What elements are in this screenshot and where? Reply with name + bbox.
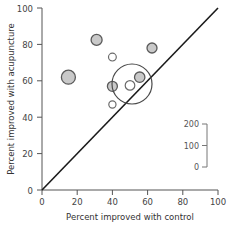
x-tick-label-0: 0 [39, 197, 44, 207]
line-of-equality [42, 8, 218, 190]
acupuncture-vs-control-scatter: 100 80 60 40 20 0 0 20 40 60 80 100 Perc… [0, 0, 233, 228]
scatter-plot-figure: 100 80 60 40 20 0 0 20 40 60 80 100 Perc… [0, 0, 233, 228]
data-point-study-1[interactable] [61, 70, 75, 84]
sample-size-legend: 200 100 0 [184, 120, 207, 172]
legend-label-100: 100 [184, 142, 199, 151]
data-point-study-6[interactable] [109, 101, 116, 108]
y-tick-label-60: 60 [22, 76, 33, 86]
data-point-study-7[interactable] [125, 81, 135, 91]
x-tick-label-80: 80 [177, 197, 188, 207]
y-tick-label-100: 100 [17, 4, 33, 14]
x-tick-label-40: 40 [107, 197, 118, 207]
data-points [61, 34, 157, 108]
y-axis-ticks [37, 8, 42, 190]
y-tick-label-20: 20 [22, 149, 33, 159]
data-point-study-4[interactable] [147, 43, 157, 53]
data-point-study-3[interactable] [109, 53, 117, 61]
x-tick-label-60: 60 [142, 197, 153, 207]
data-point-study-2[interactable] [91, 34, 102, 45]
x-axis-ticks [42, 190, 218, 195]
y-axis-title: Percent improved with acupuncture [6, 23, 16, 175]
y-tick-label-40: 40 [22, 113, 33, 123]
y-tick-label-0: 0 [28, 186, 33, 196]
legend-label-0: 0 [194, 163, 199, 172]
x-tick-label-20: 20 [72, 197, 83, 207]
x-tick-label-100: 100 [210, 197, 226, 207]
legend-label-200: 200 [184, 120, 199, 129]
x-axis-title: Percent improved with control [66, 212, 194, 222]
data-point-study-8[interactable] [135, 72, 145, 82]
y-tick-label-80: 80 [22, 40, 33, 50]
